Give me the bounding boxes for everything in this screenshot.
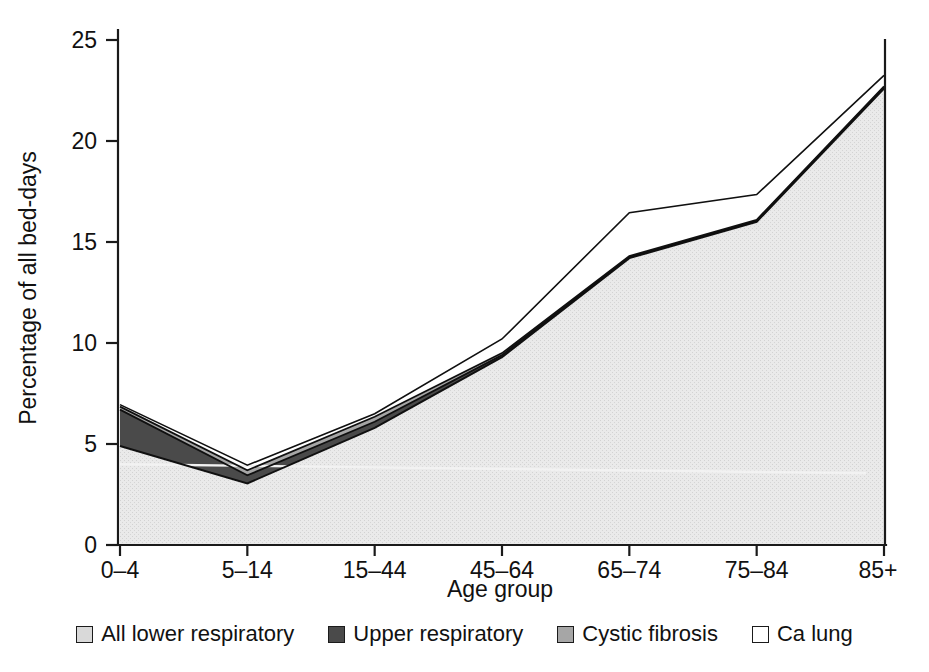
x-tick-label: 5–14: [222, 557, 273, 583]
area-chart-svg: 0510152025 0–45–1415–4445–6465–7475–8485…: [0, 0, 929, 672]
legend-label-upper-respiratory: Upper respiratory: [353, 623, 523, 645]
y-tick-label: 10: [71, 330, 97, 356]
chart-legend: All lower respiratory Upper respiratory …: [0, 612, 929, 656]
legend-swatch-upper-respiratory: [328, 626, 345, 643]
legend-swatch-cystic-fibrosis: [557, 626, 574, 643]
legend-swatch-ca-lung: [752, 626, 769, 643]
legend-label-cystic-fibrosis: Cystic fibrosis: [582, 623, 718, 645]
plot-area: 0510152025 0–45–1415–4445–6465–7475–8485…: [0, 0, 929, 672]
legend-label-ca-lung: Ca lung: [777, 623, 853, 645]
legend-swatch-all-lower-respiratory: [76, 626, 93, 643]
y-tick-label: 25: [71, 27, 97, 53]
x-tick-label: 75–84: [725, 557, 789, 583]
y-tick-label: 0: [84, 532, 97, 558]
legend-item: Ca lung: [752, 623, 853, 645]
stacked-areas-group: [120, 75, 884, 545]
y-tick-label: 20: [71, 128, 97, 154]
legend-label-all-lower-respiratory: All lower respiratory: [101, 623, 294, 645]
x-tick-label: 85+: [858, 557, 897, 583]
legend-item: All lower respiratory: [76, 623, 294, 645]
x-tick-label: 65–74: [597, 557, 661, 583]
y-axis-ticks: 0510152025: [71, 27, 118, 558]
x-tick-label: 0–4: [101, 557, 140, 583]
x-axis-title: Age group: [447, 576, 553, 602]
y-tick-label: 15: [71, 229, 97, 255]
x-tick-label: 15–44: [343, 557, 407, 583]
y-axis-title: Percentage of all bed-days: [15, 151, 41, 425]
legend-item: Cystic fibrosis: [557, 623, 718, 645]
chart-figure: 0510152025 0–45–1415–4445–6465–7475–8485…: [0, 0, 929, 672]
y-tick-label: 5: [84, 431, 97, 457]
legend-item: Upper respiratory: [328, 623, 523, 645]
